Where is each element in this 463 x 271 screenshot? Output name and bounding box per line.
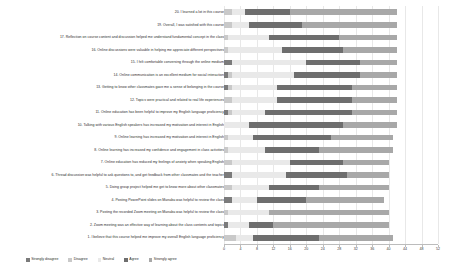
- stacked-bar[interactable]: [224, 85, 397, 91]
- bar-segment: [282, 47, 344, 53]
- bar-track: [224, 181, 463, 194]
- bar-segment: [228, 135, 253, 141]
- bar-segment: [306, 197, 384, 203]
- x-tick-label: 0: [223, 247, 225, 251]
- stacked-bar[interactable]: [224, 97, 397, 103]
- legend-item[interactable]: Strongly agree: [149, 258, 177, 262]
- chart-row: 14. Online communication is an excellent…: [0, 69, 463, 82]
- chart-row: 1. I believe that this course helped me …: [0, 231, 463, 244]
- bar-segment: [236, 235, 252, 241]
- bar-segment: [232, 85, 277, 91]
- bar-track: [224, 231, 463, 244]
- bar-segment: [269, 35, 339, 41]
- stacked-bar[interactable]: [224, 172, 389, 178]
- stacked-bar[interactable]: [224, 135, 393, 141]
- legend-label: Neutral: [103, 258, 114, 262]
- bar-segment: [224, 9, 232, 15]
- legend-swatch-icon: [26, 258, 30, 262]
- bar-segment: [257, 197, 306, 203]
- row-category-label: 20. I learned a lot in this course: [2, 6, 224, 19]
- stacked-bar[interactable]: [224, 210, 389, 216]
- bar-segment: [352, 85, 397, 91]
- legend-item[interactable]: Neutral: [98, 258, 114, 262]
- stacked-bar[interactable]: [224, 160, 389, 166]
- bar-segment: [224, 235, 236, 241]
- stacked-bar[interactable]: [224, 60, 397, 66]
- bar-segment: [360, 72, 397, 78]
- bar-segment: [343, 160, 388, 166]
- bar-track: [224, 31, 463, 44]
- row-category-label: 13. Getting to know other classmates gav…: [2, 81, 224, 94]
- x-axis: 0481216202428323640444852: [224, 244, 438, 256]
- bar-track: [224, 131, 463, 144]
- bar-track: [224, 206, 463, 219]
- chart-row: 16. Online discussions were valuable in …: [0, 44, 463, 57]
- bar-segment: [224, 185, 232, 191]
- stacked-bar[interactable]: [224, 122, 397, 128]
- bar-segment: [224, 97, 232, 103]
- plot-area: 20. I learned a lot in this course19. Ov…: [0, 6, 463, 244]
- bar-track: [224, 156, 463, 169]
- legend-item[interactable]: Strongly disagree: [26, 258, 58, 262]
- stacked-bar[interactable]: [224, 35, 397, 41]
- bar-segment: [319, 185, 389, 191]
- bar-segment: [224, 122, 249, 128]
- stacked-bar[interactable]: [224, 147, 393, 153]
- bar-track: [224, 6, 463, 19]
- x-tick-label: 36: [370, 247, 374, 251]
- bar-segment: [232, 197, 257, 203]
- row-category-label: 14. Online communication is an excellent…: [2, 69, 224, 82]
- bar-segment: [277, 85, 351, 91]
- stacked-bar[interactable]: [224, 235, 393, 241]
- chart-row: 2. Zoom meeting was an effective way of …: [0, 219, 463, 232]
- bar-track: [224, 81, 463, 94]
- bar-segment: [232, 160, 290, 166]
- x-tick-label: 52: [436, 247, 440, 251]
- bar-segment: [331, 135, 393, 141]
- stacked-bar[interactable]: [224, 222, 389, 228]
- stacked-bar[interactable]: [224, 110, 397, 116]
- row-category-label: 16. Online discussions were valuable in …: [2, 44, 224, 57]
- chart-row: 19. Overall, I was satisfied with this c…: [0, 19, 463, 32]
- chart-row: 3. Posting the recorded Zoom meeting on …: [0, 206, 463, 219]
- stacked-bar[interactable]: [224, 72, 397, 78]
- x-tick-label: 32: [354, 247, 358, 251]
- bar-segment: [253, 235, 319, 241]
- bar-segment: [319, 147, 393, 153]
- bar-segment: [228, 35, 269, 41]
- row-category-label: 6. Thread discussion was helpful to ask …: [2, 169, 224, 182]
- chart-row: 8. Online learning has increased my conf…: [0, 144, 463, 157]
- legend-item[interactable]: Disagree: [68, 258, 87, 262]
- bar-segment: [269, 210, 388, 216]
- stacked-bar[interactable]: [224, 185, 389, 191]
- stacked-bar[interactable]: [224, 9, 397, 15]
- legend-swatch-icon: [124, 258, 128, 262]
- chart-row: 7. Online education has reduced my feeli…: [0, 156, 463, 169]
- stacked-bar[interactable]: [224, 197, 385, 203]
- chart-row: 20. I learned a lot in this course: [0, 6, 463, 19]
- row-category-label: 2. Zoom meeting was an effective way of …: [2, 219, 224, 232]
- bar-segment: [232, 97, 277, 103]
- bar-track: [224, 44, 463, 57]
- chart-row: 5. Doing group project helped me get to …: [0, 181, 463, 194]
- legend-item[interactable]: Agree: [124, 258, 139, 262]
- bar-segment: [249, 222, 274, 228]
- x-tick-label: 24: [321, 247, 325, 251]
- chart-row: 6. Thread discussion was helpful to ask …: [0, 169, 463, 182]
- x-tick-label: 44: [403, 247, 407, 251]
- bar-segment: [245, 9, 290, 15]
- stacked-bar[interactable]: [224, 22, 397, 28]
- x-tick-label: 40: [387, 247, 391, 251]
- bar-segment: [232, 60, 306, 66]
- chart-legend: Strongly disagreeDisagreeNeutralAgreeStr…: [26, 255, 177, 265]
- bar-segment: [249, 22, 303, 28]
- bar-segment: [232, 22, 248, 28]
- x-tick-label: 4: [239, 247, 241, 251]
- bar-segment: [352, 110, 397, 116]
- row-category-label: 8. Online learning has increased my conf…: [2, 144, 224, 157]
- row-category-label: 9. Online learning has increased my moti…: [2, 131, 224, 144]
- x-tick-label: 12: [271, 247, 275, 251]
- bar-track: [224, 194, 463, 207]
- bar-segment: [294, 72, 360, 78]
- stacked-bar[interactable]: [224, 47, 397, 53]
